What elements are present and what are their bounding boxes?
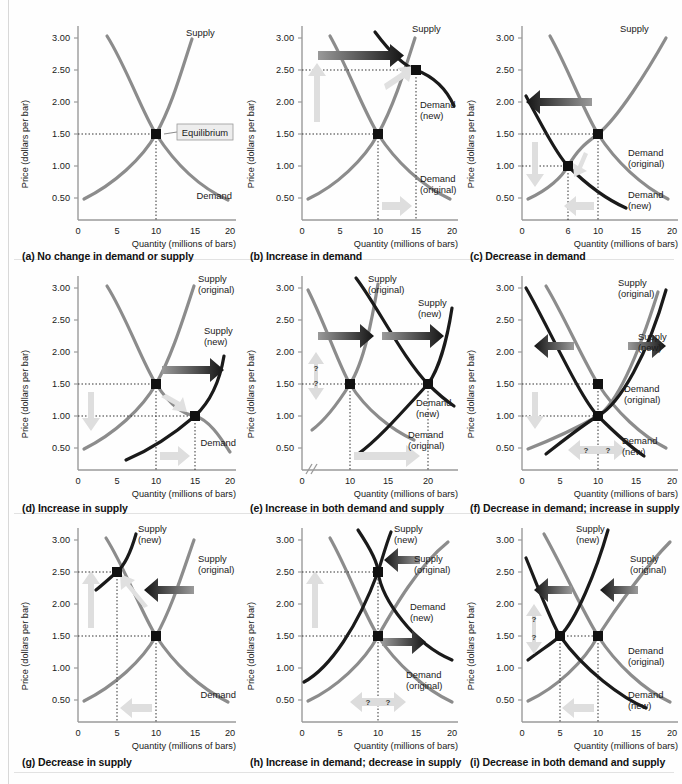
svg-text:2.50: 2.50 — [52, 65, 70, 75]
svg-text:1.50: 1.50 — [496, 379, 514, 389]
svg-text:15: 15 — [190, 476, 200, 486]
svg-text:3.00: 3.00 — [52, 33, 70, 43]
demand-original-label-line1: Demand — [628, 645, 663, 656]
supply-original-label-line1: Supply — [414, 553, 443, 564]
x-tick-labels: 0 5 10 15 20 — [75, 728, 235, 738]
svg-text:0.50: 0.50 — [52, 193, 70, 203]
svg-text:3.00: 3.00 — [276, 535, 294, 545]
y-tick-labels: 0.50 1.00 1.50 2.00 2.50 3.00 — [52, 283, 70, 453]
svg-text:3.00: 3.00 — [276, 283, 294, 293]
svg-text:10: 10 — [373, 226, 383, 236]
svg-text:1.00: 1.00 — [496, 161, 514, 171]
equilibrium-callout-label: Equilibrium — [182, 127, 229, 138]
supply-original-label-line2: (original) — [414, 564, 450, 575]
old-equilibrium-point — [373, 129, 383, 139]
y-tick-labels: 0.50 1.00 1.50 2.00 2.50 3.00 — [52, 33, 70, 203]
old-equilibrium-point — [593, 379, 603, 389]
svg-text:2.00: 2.00 — [496, 599, 514, 609]
old-equilibrium-point — [345, 379, 355, 389]
price-up-arrow — [82, 571, 100, 628]
svg-text:5: 5 — [557, 476, 562, 486]
svg-text:0.50: 0.50 — [496, 193, 514, 203]
svg-text:2.50: 2.50 — [52, 315, 70, 325]
panel-b: Price (dollars per bar) 0.50 1.00 1.50 2… — [242, 14, 462, 264]
new-equilibrium-point — [563, 161, 573, 171]
y-axis-label: Price (dollars per bar) — [246, 100, 256, 188]
svg-text:2.00: 2.00 — [496, 97, 514, 107]
figure-page: Price (dollars per bar) 0.50 1.00 1.50 2… — [0, 0, 682, 784]
y-axis-label: Price (dollars per bar) — [20, 100, 30, 188]
x-tick-labels: 0 5 10 15 20 — [299, 226, 457, 236]
quantity-ambiguous-arrow: ? ? — [568, 440, 626, 460]
quantity-question-mark-right: ? — [386, 698, 391, 707]
quantity-left-arrow — [120, 698, 152, 718]
svg-text:10: 10 — [373, 728, 383, 738]
supply-original-label-line2: (original) — [198, 284, 234, 295]
price-up-arrow — [306, 571, 324, 628]
svg-text:10: 10 — [593, 226, 603, 236]
demand-original-label-line2: (original) — [420, 184, 456, 195]
svg-text:20: 20 — [225, 728, 235, 738]
svg-text:5: 5 — [337, 226, 342, 236]
svg-text:1.50: 1.50 — [276, 631, 294, 641]
demand-new-curve — [526, 288, 644, 456]
page-left-rule — [8, 0, 9, 784]
panel-h-chart: Price (dollars per bar) 0.50 1.00 1.50 2… — [242, 516, 462, 760]
svg-text:0: 0 — [299, 476, 304, 486]
svg-text:0: 0 — [299, 226, 304, 236]
svg-text:15: 15 — [190, 728, 200, 738]
demand-original-label-line2: (original) — [408, 440, 444, 451]
old-equilibrium-point — [151, 631, 161, 641]
new-equilibrium-point — [373, 567, 383, 577]
panel-h-caption: (h) Increase in demand; decrease in supp… — [250, 756, 461, 768]
svg-text:1.50: 1.50 — [276, 129, 294, 139]
demand-label: Demand — [197, 190, 232, 201]
panel-b-caption: (b) Increase in demand — [250, 250, 362, 262]
supply-label: Supply — [186, 27, 215, 38]
price-down-arrow — [526, 392, 544, 429]
svg-text:6: 6 — [565, 226, 570, 236]
svg-text:10: 10 — [151, 226, 161, 236]
svg-text:3.00: 3.00 — [496, 283, 514, 293]
panel-e-caption: (e) Increase in both demand and supply — [250, 502, 444, 514]
svg-text:1.00: 1.00 — [496, 411, 514, 421]
y-axis-label: Price (dollars per bar) — [466, 350, 476, 438]
supply-new-label-line2: (new) — [138, 534, 161, 545]
svg-text:0: 0 — [75, 728, 80, 738]
y-tick-labels: 0.50 1.00 1.50 2.00 2.50 3.00 — [276, 283, 294, 453]
supply-new-label-line1: Supply — [204, 325, 233, 336]
demand-new-label-line2: (new) — [410, 612, 433, 623]
svg-text:2.00: 2.00 — [52, 347, 70, 357]
svg-text:2.00: 2.00 — [276, 347, 294, 357]
svg-text:1.00: 1.00 — [276, 663, 294, 673]
supply-shift-arrow — [144, 578, 194, 602]
svg-text:2.50: 2.50 — [496, 315, 514, 325]
x-axis-label: Quantity (millions of bars) — [354, 239, 458, 249]
svg-text:20: 20 — [225, 476, 235, 486]
price-question-mark-bottom: ? — [314, 379, 319, 388]
quantity-left-arrow — [562, 698, 594, 718]
supply-original-label-line1: Supply — [630, 553, 659, 564]
old-equilibrium-point — [151, 379, 161, 389]
demand-original-label-line1: Demand — [406, 669, 441, 680]
panel-f-chart: Price (dollars per bar) 0.50 1.00 1.50 2… — [462, 264, 682, 506]
demand-new-label-line2: (new) — [622, 446, 645, 457]
svg-text:1.50: 1.50 — [276, 379, 294, 389]
x-tick-labels: 0 5 10 15 20 — [75, 226, 235, 236]
svg-text:2.50: 2.50 — [52, 567, 70, 577]
panel-d-chart: Price (dollars per bar) 0.50 1.00 1.50 2… — [14, 264, 242, 506]
x-axis-label: Quantity (millions of bars) — [574, 489, 678, 499]
supply-original-label-line2: (original) — [630, 564, 666, 575]
demand-shift-arrow — [526, 90, 592, 114]
supply-curve — [84, 39, 192, 199]
y-tick-labels: 0.50 1.00 1.50 2.00 2.50 3.00 — [496, 283, 514, 453]
supply-original-label-line2: (original) — [618, 288, 654, 299]
new-equilibrium-point — [423, 379, 433, 389]
svg-text:5: 5 — [114, 226, 119, 236]
svg-text:10: 10 — [593, 728, 603, 738]
svg-text:20: 20 — [667, 476, 677, 486]
equilibrium-shift-arrow — [120, 574, 148, 608]
supply-new-label-line1: Supply — [138, 523, 167, 534]
svg-text:15: 15 — [190, 226, 200, 236]
supply-original-label-line1: Supply — [368, 273, 397, 284]
